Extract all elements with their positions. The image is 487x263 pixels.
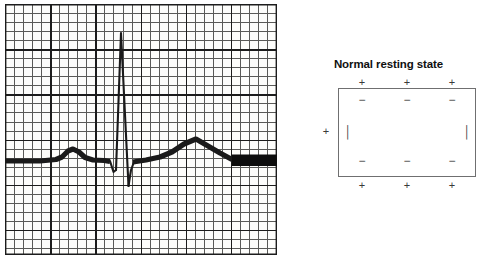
charge-left-inner-mark: │ <box>341 126 355 138</box>
charge-inner-bottom-1: − <box>355 155 369 167</box>
ecg-s-deflection <box>129 162 135 186</box>
charge-right-inner-mark: │ <box>460 126 474 138</box>
charge-inner-top-1: − <box>355 94 369 106</box>
ecg-st-segment-t-wave <box>133 139 232 162</box>
charge-inner-top-2: − <box>400 94 414 106</box>
ecg-r-wave-spike <box>116 33 129 186</box>
charge-outer-top-2: + <box>400 77 414 88</box>
ecg-baseline-p-wave-segment <box>6 149 110 162</box>
charge-outer-bottom-3: + <box>445 180 459 191</box>
membrane-polarization-panel: Normal resting state + + + − − − + │ │ −… <box>290 0 487 263</box>
charge-outer-top-3: + <box>445 77 459 88</box>
charge-outer-top-1: + <box>355 77 369 88</box>
charge-inner-top-3: − <box>445 94 459 106</box>
charge-inner-bottom-2: − <box>400 155 414 167</box>
ecg-trace <box>0 0 290 263</box>
charge-outer-bottom-1: + <box>355 180 369 191</box>
charge-left-outer: + <box>319 126 333 137</box>
membrane-panel-title: Normal resting state <box>290 58 487 70</box>
ecg-waveform-panel <box>0 0 290 263</box>
ecg-terminal-bar <box>232 155 277 167</box>
charge-inner-bottom-3: − <box>445 155 459 167</box>
charge-outer-bottom-2: + <box>400 180 414 191</box>
